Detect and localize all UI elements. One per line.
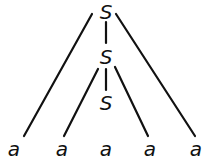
edge-middle-s-to-leaf-2 [64,69,98,136]
leaf-3: a [100,137,112,161]
edge-root-to-leaf-5 [116,14,195,136]
leaf-1: a [8,137,20,161]
node-lower-s: S [100,91,113,115]
leaf-2: a [56,137,68,161]
node-root-s: S [100,0,113,24]
leaf-4: a [144,137,156,161]
parse-tree-diagram: S S S a a a a a [0,0,219,164]
node-middle-s: S [100,45,113,69]
edge-middle-s-to-leaf-4 [115,67,148,136]
edge-root-to-leaf-1 [24,14,92,136]
leaf-5: a [190,137,202,161]
